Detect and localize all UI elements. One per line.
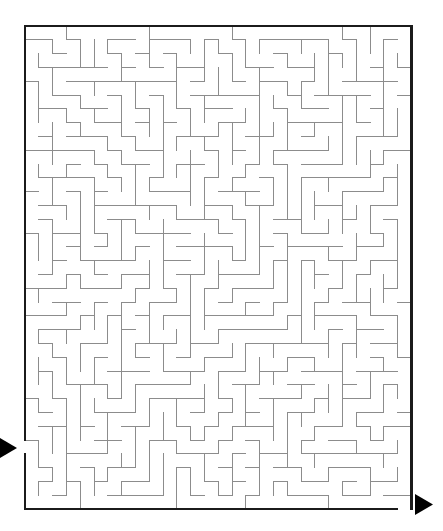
maze-canvas xyxy=(0,0,443,531)
maze-page xyxy=(0,0,443,531)
maze-figure xyxy=(0,0,443,531)
